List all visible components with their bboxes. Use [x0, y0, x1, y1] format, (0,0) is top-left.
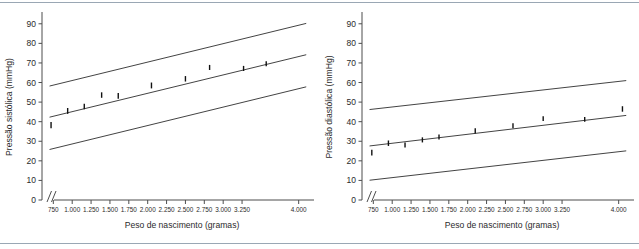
y-tick-label: 50: [27, 97, 37, 107]
x-tick-label: 2.500: [497, 206, 513, 213]
axis-break-slash-1: [47, 191, 52, 202]
x-tick-label: 4.000: [610, 206, 626, 213]
chart-panel-diastolic: 01020304050607080907501.0001.2501.5001.7…: [320, 4, 639, 242]
x-tick-label: 2.000: [140, 206, 156, 213]
y-axis-title: Pressão diastólica (mmHg): [324, 55, 334, 158]
x-tick-label: 2.750: [516, 206, 532, 213]
y-tick-label: 0: [31, 195, 36, 205]
y-tick-label: 90: [346, 19, 356, 29]
x-tick-label: 2.250: [478, 206, 494, 213]
x-tick-label: 1.750: [440, 206, 456, 213]
y-tick-label: 0: [351, 195, 356, 205]
y-tick-label: 70: [346, 58, 356, 68]
upper-reference-line: [50, 23, 307, 86]
y-tick-label: 60: [27, 78, 37, 88]
x-tick-label: 750: [48, 206, 59, 213]
axis-break-slash-1: [367, 191, 372, 202]
x-tick-label: 3.000: [535, 206, 551, 213]
figure-top-rule: [0, 2, 639, 3]
y-tick-label: 40: [346, 117, 356, 127]
y-tick-label: 80: [346, 38, 356, 48]
x-tick-label: 3.000: [215, 206, 231, 213]
x-tick-label: 3.250: [554, 206, 570, 213]
y-tick-label: 60: [346, 78, 356, 88]
y-tick-label: 90: [27, 19, 37, 29]
x-tick-label: 2.500: [177, 206, 193, 213]
x-tick-label: 2.750: [196, 206, 212, 213]
y-tick-label: 40: [27, 117, 37, 127]
y-tick-label: 80: [27, 38, 37, 48]
x-tick-label: 1.750: [121, 206, 137, 213]
y-axis-title: Pressão sistólica (mmHg): [4, 58, 14, 156]
systolic-plot-svg: 01020304050607080907501.0001.2501.5001.7…: [0, 4, 320, 242]
x-tick-label: 2.000: [459, 206, 475, 213]
panel-row: 01020304050607080907501.0001.2501.5001.7…: [0, 4, 639, 242]
diastolic-plot-svg: 01020304050607080907501.0001.2501.5001.7…: [320, 4, 639, 242]
x-axis-title: Peso de nascimento (gramas): [125, 220, 240, 230]
regression-line: [50, 55, 307, 117]
y-tick-label: 20: [346, 156, 356, 166]
chart-panel-systolic: 01020304050607080907501.0001.2501.5001.7…: [0, 4, 320, 242]
y-tick-label: 30: [346, 136, 356, 146]
x-tick-label: 3.250: [234, 206, 250, 213]
y-tick-label: 10: [27, 175, 37, 185]
x-tick-label: 2.250: [159, 206, 175, 213]
x-tick-label: 1.250: [83, 206, 99, 213]
x-tick-label: 1.000: [384, 206, 400, 213]
y-tick-label: 20: [27, 156, 37, 166]
y-tick-label: 50: [346, 97, 356, 107]
x-tick-label: 750: [367, 206, 378, 213]
y-tick-label: 30: [27, 136, 37, 146]
y-tick-label: 70: [27, 58, 37, 68]
figure-container: 01020304050607080907501.0001.2501.5001.7…: [0, 0, 639, 249]
x-tick-label: 4.000: [291, 206, 307, 213]
lower-reference-line: [369, 151, 626, 180]
x-tick-label: 1.500: [421, 206, 437, 213]
x-tick-label: 1.500: [102, 206, 118, 213]
lower-reference-line: [50, 87, 307, 150]
regression-line: [369, 115, 626, 146]
x-axis-title: Peso de nascimento (gramas): [444, 220, 559, 230]
x-tick-label: 1.000: [64, 206, 80, 213]
x-tick-label: 1.250: [403, 206, 419, 213]
upper-reference-line: [369, 81, 626, 110]
figure-bottom-rule: [0, 243, 639, 244]
y-tick-label: 10: [346, 175, 356, 185]
